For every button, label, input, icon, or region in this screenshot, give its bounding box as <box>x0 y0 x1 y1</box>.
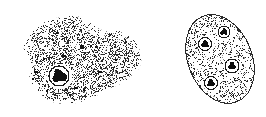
cytoplasmic-granule <box>95 46 98 48</box>
cytoplasmic-granule <box>115 59 118 61</box>
cytoplasmic-granule <box>90 45 93 48</box>
cytoplasmic-granule <box>69 94 72 96</box>
cytoplasmic-granule <box>62 55 66 58</box>
cytoplasmic-granule <box>46 90 49 92</box>
cytoplasmic-granule <box>80 45 85 49</box>
protozoan-figure <box>0 0 266 117</box>
nucleus-4 <box>204 76 219 91</box>
cytoplasmic-granule <box>83 89 86 92</box>
trophozoite-nucleus <box>48 65 71 88</box>
nucleus-1 <box>217 25 231 39</box>
nucleus-2 <box>198 37 213 52</box>
cytoplasmic-granule <box>32 78 35 80</box>
cytoplasmic-granule <box>43 58 46 60</box>
cytoplasmic-granule <box>107 74 110 76</box>
cytoplasmic-granule <box>34 71 38 74</box>
cytoplasmic-granule <box>98 71 102 74</box>
cytoplasmic-granule <box>56 32 59 34</box>
nucleus-3 <box>224 58 240 74</box>
cytoplasmic-granule <box>74 87 78 90</box>
